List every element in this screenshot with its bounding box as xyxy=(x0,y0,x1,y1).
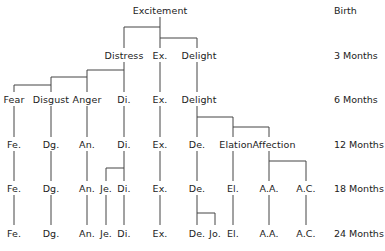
node-anger: Anger xyxy=(73,94,102,105)
node-distress-abbr: Di. xyxy=(117,228,130,239)
node-disgust-abbr: Dg. xyxy=(43,183,60,194)
node-elation: Elation xyxy=(219,139,252,150)
node-distress-abbr: Di. xyxy=(117,139,130,150)
node-disgust-abbr: Dg. xyxy=(43,139,60,150)
node-affection-children: A.C. xyxy=(296,228,315,239)
age-label-3-months: 3 Months xyxy=(334,50,378,61)
age-label-18-months: 18 Months xyxy=(334,183,384,194)
node-delight-abbr: De. xyxy=(189,183,205,194)
node-elation-abbr: El. xyxy=(227,183,239,194)
node-anger-abbr: An. xyxy=(79,139,95,150)
node-affection-adults: A.A. xyxy=(259,228,278,239)
node-excitement-abbr: Ex. xyxy=(153,94,168,105)
node-disgust-abbr: Dg. xyxy=(43,228,60,239)
node-delight-abbr: De. xyxy=(189,139,205,150)
node-delight-abbr: De. xyxy=(189,228,205,239)
emotion-development-tree: Excitement Distress Ex. Delight Fear Dis… xyxy=(0,0,385,251)
node-delight: Delight xyxy=(182,94,217,105)
node-excitement-abbr: Ex. xyxy=(153,50,168,61)
node-jealousy-abbr: Je. xyxy=(100,228,112,239)
age-label-6-months: 6 Months xyxy=(334,94,378,105)
tree-connectors xyxy=(0,0,385,251)
node-affection-adults: A.A. xyxy=(259,183,278,194)
node-anger-abbr: An. xyxy=(79,228,95,239)
node-fear-abbr: Fe. xyxy=(7,228,21,239)
node-elation-abbr: El. xyxy=(227,228,239,239)
node-excitement-abbr: Ex. xyxy=(153,228,168,239)
node-affection: Affection xyxy=(252,139,295,150)
node-fear: Fear xyxy=(4,94,25,105)
node-affection-children: A.C. xyxy=(296,183,315,194)
node-distress: Distress xyxy=(105,50,144,61)
node-disgust: Disgust xyxy=(33,94,69,105)
node-excitement-abbr: Ex. xyxy=(153,183,168,194)
node-delight: Delight xyxy=(182,50,217,61)
node-jealousy-abbr: Je. xyxy=(100,183,112,194)
node-fear-abbr: Fe. xyxy=(7,139,21,150)
node-distress-abbr: Di. xyxy=(117,94,130,105)
node-fear-abbr: Fe. xyxy=(7,183,21,194)
age-label-24-months: 24 Months xyxy=(334,228,384,239)
age-label-birth: Birth xyxy=(334,5,357,16)
node-distress-abbr: Di. xyxy=(117,183,130,194)
node-anger-abbr: An. xyxy=(79,183,95,194)
node-excitement: Excitement xyxy=(133,5,188,16)
node-joy-abbr: Jo. xyxy=(209,228,221,239)
age-label-12-months: 12 Months xyxy=(334,139,384,150)
node-excitement-abbr: Ex. xyxy=(153,139,168,150)
